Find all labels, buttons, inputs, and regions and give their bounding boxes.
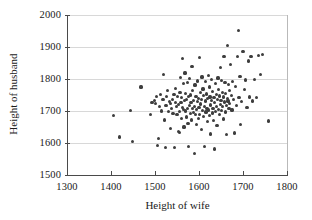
data-point — [221, 105, 224, 108]
data-point — [178, 110, 181, 113]
data-point — [164, 104, 167, 107]
data-point — [170, 107, 173, 110]
data-point — [149, 113, 152, 116]
data-point — [193, 83, 196, 86]
data-point — [154, 102, 157, 105]
x-axis-tick — [67, 171, 68, 176]
data-point — [178, 131, 181, 134]
data-point — [174, 87, 177, 90]
data-point — [222, 117, 225, 120]
data-point — [211, 90, 214, 93]
y-axis-tick — [65, 111, 70, 112]
scatter-plot-figure: Height of wife Height of husband 1500160… — [0, 0, 312, 220]
data-point — [244, 78, 247, 81]
plot-frame-right — [287, 15, 288, 176]
data-point — [171, 112, 174, 115]
data-point — [160, 109, 163, 112]
data-point — [112, 114, 115, 117]
data-point — [195, 123, 198, 126]
data-point — [259, 73, 262, 76]
data-point — [224, 110, 227, 113]
data-point — [225, 133, 228, 136]
data-point — [192, 99, 195, 102]
x-axis-tick — [111, 171, 112, 176]
data-point — [233, 131, 236, 134]
data-point — [216, 76, 219, 79]
data-point — [206, 120, 209, 123]
data-point — [212, 119, 215, 122]
data-point — [255, 96, 258, 99]
data-point — [183, 71, 186, 74]
y-axis-tick-label: 1500 — [27, 170, 61, 181]
data-point — [209, 132, 212, 135]
data-point — [163, 118, 166, 121]
data-point — [190, 118, 193, 121]
data-point — [169, 127, 172, 130]
data-point — [215, 124, 218, 127]
data-point — [182, 82, 185, 85]
data-point — [228, 102, 231, 105]
data-point — [213, 147, 216, 150]
data-point — [201, 87, 204, 90]
data-point — [217, 88, 220, 91]
data-point — [193, 152, 196, 155]
data-point — [238, 75, 241, 78]
data-point — [166, 89, 169, 92]
data-point — [181, 57, 184, 60]
data-point — [210, 78, 213, 81]
data-point — [155, 95, 158, 98]
data-point — [185, 98, 188, 101]
data-point — [118, 135, 121, 138]
data-point — [231, 80, 234, 83]
y-axis-tick-label: 1900 — [27, 42, 61, 53]
data-point — [230, 108, 233, 111]
data-point — [200, 75, 203, 78]
data-point — [180, 117, 183, 120]
data-point — [161, 98, 164, 101]
data-point — [175, 113, 178, 116]
data-point — [182, 125, 185, 128]
data-point — [204, 80, 207, 83]
data-point — [229, 63, 232, 66]
data-point — [232, 98, 235, 101]
data-point — [228, 89, 231, 92]
data-point — [207, 108, 210, 111]
data-point — [173, 146, 176, 149]
data-point — [164, 146, 167, 149]
data-point — [234, 85, 237, 88]
y-axis-tick-label: 1700 — [27, 106, 61, 117]
data-point — [194, 113, 197, 116]
data-point — [162, 73, 165, 76]
data-point — [196, 79, 199, 82]
data-point — [219, 66, 222, 69]
data-point — [198, 56, 201, 59]
gridline-horizontal — [67, 47, 287, 48]
data-point — [218, 94, 221, 97]
data-point — [185, 115, 188, 118]
data-point — [213, 101, 216, 104]
data-point — [197, 117, 200, 120]
data-point — [224, 92, 227, 95]
data-point — [261, 53, 264, 56]
data-point — [222, 95, 225, 98]
data-point — [243, 88, 246, 91]
data-point — [249, 55, 252, 58]
x-axis-tick-label: 1700 — [223, 182, 263, 193]
y-axis-tick — [65, 79, 70, 80]
data-point — [200, 128, 203, 131]
y-axis-tick — [65, 47, 70, 48]
gridline-horizontal — [67, 15, 287, 16]
data-point — [187, 145, 190, 148]
data-point — [167, 110, 170, 113]
x-axis-tick — [243, 171, 244, 176]
data-point — [186, 107, 189, 110]
y-axis-tick — [65, 143, 70, 144]
data-point — [158, 105, 161, 108]
data-point — [191, 89, 194, 92]
data-point — [222, 55, 225, 58]
gridline-horizontal — [67, 111, 287, 112]
data-point — [248, 95, 251, 98]
data-point — [190, 65, 193, 68]
x-axis-tick — [287, 171, 288, 176]
data-point — [245, 106, 248, 109]
